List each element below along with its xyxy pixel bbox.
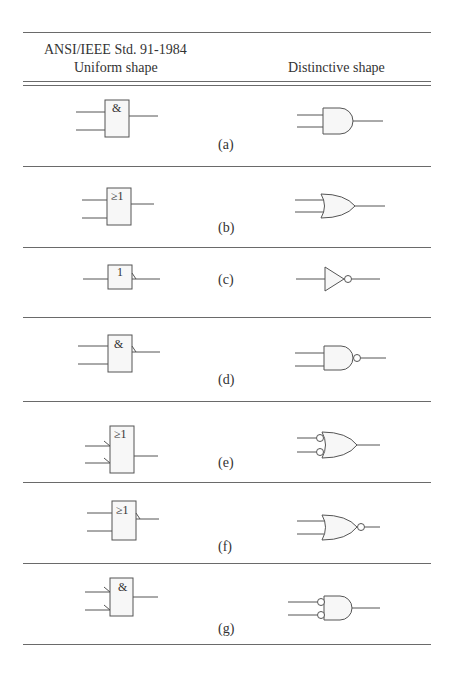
gate-row-and-negated-inputs: & (g)	[0, 564, 449, 644]
row-label-d: (d)	[218, 372, 234, 388]
gate-row-or-negated-inputs: ≥1 (e)	[0, 402, 449, 482]
row-label-c: (c)	[218, 272, 234, 288]
gate-row-not: 1 (c)	[0, 248, 449, 317]
header-distinctive-shape: Distinctive shape	[288, 60, 385, 76]
uniform-or-negated-inputs-icon: ≥1	[85, 426, 158, 473]
distinctive-and-gate-icon	[297, 108, 383, 134]
row-label-f: (f)	[218, 539, 232, 555]
row-label-a: (a)	[218, 137, 234, 153]
distinctive-not-gate-icon	[296, 267, 380, 291]
gate-row-nand: & (d)	[0, 318, 449, 401]
table-bottom-rule	[23, 644, 431, 645]
uniform-nand-gate-icon: &	[78, 335, 160, 372]
svg-text:&: &	[118, 580, 128, 594]
row-label-g: (g)	[218, 621, 234, 637]
header-double-rule-1	[23, 81, 431, 82]
svg-text:≥1: ≥1	[111, 189, 124, 203]
gate-row-nor: ≥1 (f)	[0, 483, 449, 563]
row-label-e: (e)	[218, 455, 234, 471]
uniform-and-gate-icon: &	[76, 100, 158, 137]
uniform-not-gate-icon: 1	[83, 265, 160, 289]
svg-text:≥1: ≥1	[116, 503, 129, 517]
table-top-rule	[23, 32, 431, 33]
svg-text:&: &	[114, 337, 124, 351]
distinctive-nor-gate-icon	[297, 515, 380, 540]
header-uniform-shape: Uniform shape	[74, 60, 158, 76]
gate-row-and: & (a)	[0, 86, 449, 166]
uniform-nor-gate-icon: ≥1	[87, 501, 159, 540]
distinctive-or-negated-inputs-icon	[297, 432, 380, 458]
uniform-and-negated-inputs-icon: &	[85, 578, 158, 616]
svg-text:≥1: ≥1	[114, 427, 127, 441]
and-gate-symbols: &	[0, 86, 449, 166]
header-standard-title: ANSI/IEEE Std. 91-1984	[44, 42, 187, 58]
gate-row-or: ≥1 (b)	[0, 167, 449, 247]
distinctive-nand-gate-icon	[295, 346, 386, 370]
row-label-b: (b)	[218, 220, 234, 236]
distinctive-and-negated-inputs-icon	[288, 596, 380, 620]
distinctive-or-gate-icon	[295, 194, 385, 218]
svg-text:1: 1	[117, 265, 123, 279]
nand-gate-symbols: &	[0, 318, 449, 401]
svg-text:&: &	[112, 101, 122, 115]
uniform-or-gate-icon: ≥1	[82, 188, 154, 225]
